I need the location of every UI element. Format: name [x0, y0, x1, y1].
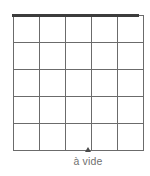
- grid-cell[interactable]: [40, 43, 66, 70]
- grid-cell[interactable]: [118, 16, 144, 43]
- grid-cell[interactable]: [66, 70, 92, 97]
- table-row: [14, 43, 144, 70]
- grid-cell[interactable]: [92, 124, 118, 151]
- grid-cell[interactable]: [118, 97, 144, 124]
- grid-cell[interactable]: [66, 16, 92, 43]
- grid-cell[interactable]: [40, 124, 66, 151]
- grid-cell[interactable]: [92, 43, 118, 70]
- grid-top-rule: [12, 14, 139, 17]
- triangle-up-icon: [85, 147, 91, 152]
- grid-cell[interactable]: [14, 70, 40, 97]
- grid-cell[interactable]: [118, 124, 144, 151]
- table-row: [14, 124, 144, 151]
- grid-cell[interactable]: [66, 43, 92, 70]
- grid-cell[interactable]: [40, 16, 66, 43]
- grid-cell[interactable]: [92, 16, 118, 43]
- table-row: [14, 16, 144, 43]
- grid-cell[interactable]: [40, 97, 66, 124]
- grid-container: [13, 15, 138, 145]
- caption-label: à vide: [0, 155, 150, 167]
- grid-cell[interactable]: [66, 97, 92, 124]
- grid-cell[interactable]: [118, 43, 144, 70]
- grid-body: [14, 16, 144, 151]
- grid-cell[interactable]: [14, 16, 40, 43]
- grid-cell[interactable]: [92, 70, 118, 97]
- grid-cell[interactable]: [118, 70, 144, 97]
- table-row: [14, 97, 144, 124]
- grid-cell[interactable]: [14, 43, 40, 70]
- grid-cell[interactable]: [92, 97, 118, 124]
- grid-cell[interactable]: [40, 70, 66, 97]
- grid-table: [13, 15, 144, 151]
- table-row: [14, 70, 144, 97]
- grid-cell[interactable]: [14, 124, 40, 151]
- figure-root: à vide: [0, 0, 150, 176]
- grid-cell[interactable]: [14, 97, 40, 124]
